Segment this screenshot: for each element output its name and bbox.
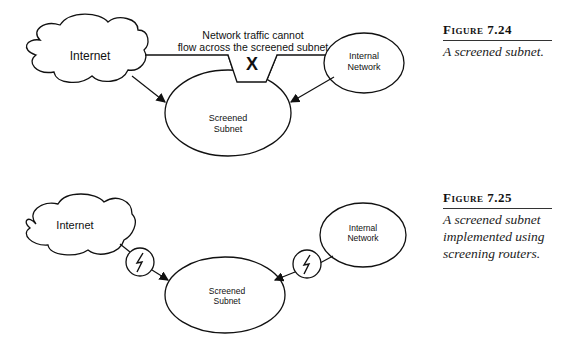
figure-7-25-caption-3: screening routers. bbox=[443, 245, 540, 262]
screened-subnet-label-1: Screened bbox=[198, 113, 258, 123]
internet-label: Internet bbox=[60, 50, 120, 64]
arrow-internal-to-subnet bbox=[291, 77, 334, 102]
arrow-internet-to-subnet bbox=[132, 76, 165, 102]
figure-7-25-title: Figure 7.25 bbox=[443, 190, 552, 209]
figure-7-25-caption-1: A screened subnet bbox=[443, 211, 540, 228]
figure-7-24-title: Figure 7.24 bbox=[443, 22, 552, 41]
screened-subnet-label-2: Subnet bbox=[198, 124, 258, 134]
annotation-line1: Network traffic cannot bbox=[168, 29, 338, 41]
internal-network-label-2: Network bbox=[334, 62, 394, 72]
internal-network-label-2b: Network bbox=[333, 234, 393, 244]
figure-7-25-caption-2: implemented using bbox=[443, 228, 545, 245]
screened-subnet-label-2b: Subnet bbox=[202, 297, 252, 307]
internal-network-label-1: Internal bbox=[334, 51, 394, 61]
internet-label-2: Internet bbox=[50, 219, 100, 232]
figure-7-24-caption: A screened subnet. bbox=[443, 43, 544, 60]
annotation-line2: flow across the screened subnet bbox=[168, 41, 338, 53]
blocked-x-mark: X bbox=[240, 54, 264, 75]
